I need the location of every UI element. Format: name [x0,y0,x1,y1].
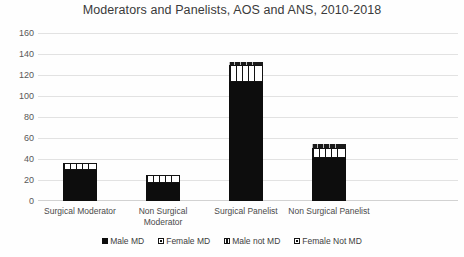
bar-segment-male-md [146,183,180,201]
x-tick-label-non-surgical-panelist: Non Surgical Panelist [286,206,372,217]
x-tick-label-surgical-panelist: Surgical Panelist [203,206,289,217]
y-tick-label: 40 [0,154,34,164]
y-axis: 160 140 120 100 80 60 40 20 0 [0,33,34,201]
legend-item-female-not-md[interactable]: Female Not MD [294,236,362,246]
y-tick-label: 60 [0,133,34,143]
chart-legend: Male MD Female MD Male not MD Female Not… [0,236,464,246]
y-tick-label: 140 [0,49,34,59]
bar-segment-female-md [63,163,97,170]
bar-surgical-moderator[interactable] [63,163,97,201]
bar-segment-female-md [146,175,180,183]
bar-non-surgical-panelist[interactable] [312,144,346,201]
x-tick-label-surgical-moderator: Surgical Moderator [37,206,123,217]
y-tick-label: 100 [0,91,34,101]
y-tick-label: 160 [0,28,34,38]
legend-item-female-md[interactable]: Female MD [158,236,210,246]
legend-item-male-md[interactable]: Male MD [102,236,144,246]
bar-segment-male-md [63,170,97,201]
bar-surgical-panelist[interactable] [229,62,263,201]
y-tick-label: 80 [0,112,34,122]
bar-segment-male-md [312,158,346,201]
y-tick-label: 0 [0,196,34,206]
plot-area [38,33,458,201]
legend-item-male-not-md[interactable]: Male not MD [224,236,280,246]
gridline [38,54,458,55]
y-tick-label: 20 [0,175,34,185]
legend-label: Female Not MD [302,236,362,246]
bar-segment-female-md [229,65,263,82]
legend-swatch-icon [294,238,300,244]
bar-non-surgical-moderator[interactable] [146,175,180,201]
bar-chart: Moderators and Panelists, AOS and ANS, 2… [0,0,464,257]
legend-swatch-icon [102,238,108,244]
x-tick-label-non-surgical-moderator: Non Surgical Moderator [120,206,206,228]
legend-label: Male not MD [232,236,280,246]
gridline [38,33,458,34]
bar-segment-male-md [229,82,263,201]
chart-title: Moderators and Panelists, AOS and ANS, 2… [0,3,464,17]
bar-segment-female-md [312,148,346,158]
legend-label: Female MD [166,236,210,246]
y-tick-label: 120 [0,70,34,80]
legend-swatch-icon [224,238,230,244]
legend-swatch-icon [158,238,164,244]
legend-label: Male MD [110,236,144,246]
